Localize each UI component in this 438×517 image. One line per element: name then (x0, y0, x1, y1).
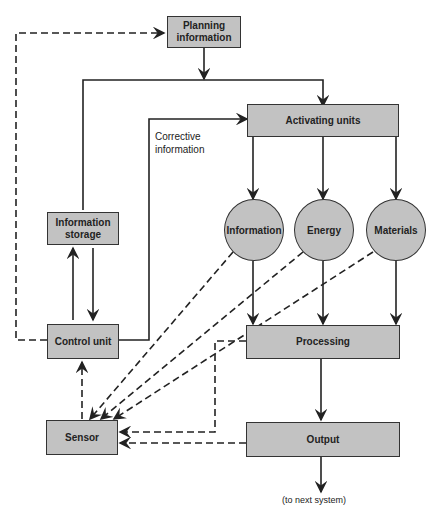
information-storage-node: Information storage (47, 212, 119, 245)
output-node: Output (246, 422, 400, 457)
energy-node: Energy (294, 199, 354, 261)
information-node: Information (224, 199, 284, 261)
planning-information-label: Planning information (168, 20, 240, 44)
energy-label: Energy (307, 225, 341, 236)
planning-information-node: Planning information (167, 16, 241, 48)
to-next-system-label: (to next system) (282, 494, 346, 507)
processing-label: Processing (296, 336, 350, 348)
sensor-node: Sensor (46, 420, 118, 455)
corrective-information-label: Corrective information (155, 130, 204, 156)
control-unit-label: Control unit (55, 336, 112, 348)
information-storage-label: Information storage (48, 217, 118, 241)
activating-units-label: Activating units (285, 115, 360, 127)
output-label: Output (307, 434, 340, 446)
processing-node: Processing (246, 325, 400, 359)
materials-label: Materials (374, 225, 417, 236)
activating-units-node: Activating units (247, 104, 399, 137)
sensor-label: Sensor (65, 432, 99, 444)
information-label: Information (227, 225, 282, 236)
control-unit-node: Control unit (47, 324, 119, 359)
materials-node: Materials (366, 199, 426, 261)
